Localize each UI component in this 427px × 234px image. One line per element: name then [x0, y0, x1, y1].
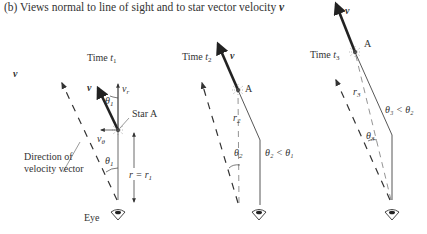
panel-2	[202, 44, 266, 220]
panel1-theta-bottom-label: θ1	[105, 156, 113, 168]
velocity-direction-dashed-line	[336, 80, 390, 200]
panel1-vtheta-label: vθ	[97, 134, 105, 146]
velocity-direction-dashed-line	[202, 83, 238, 203]
panel2-time-label: Time t2	[182, 52, 212, 64]
velocity-arrow-2	[218, 44, 238, 90]
direction-label-line2: velocity vector	[24, 164, 84, 174]
star-icon	[232, 84, 244, 96]
panel1-v-label: v	[87, 83, 91, 93]
panel2-theta-label: θ2	[234, 148, 242, 160]
theta1-arc-bottom	[106, 168, 118, 172]
panel3-star-label: A	[364, 39, 371, 49]
line-of-sight-3	[355, 52, 391, 200]
eye-icon	[252, 210, 266, 221]
eye-icon	[111, 210, 125, 221]
panel1-r-label: r = r1	[129, 170, 152, 182]
panel2-star-label: A	[245, 84, 252, 94]
panel3-time-label: Time t3	[310, 50, 340, 62]
eye-label: Eye	[84, 213, 100, 223]
panel1-theta-top-label: θ1	[105, 96, 113, 108]
star-leader-line	[120, 118, 129, 128]
panel3-theta-label: θ3	[366, 131, 374, 143]
panel2-relation: θ₂ < θ₁	[265, 148, 294, 158]
star-motion-diagram	[0, 0, 427, 234]
panel3-relation: θ₃ < θ₂	[385, 105, 414, 115]
panel1-star-label: Star A	[132, 109, 157, 119]
panel3-r-label: r3	[353, 87, 360, 99]
trajectory-line-2	[238, 90, 260, 140]
star-icon	[349, 46, 361, 58]
panel1-vr-label: vr	[122, 84, 129, 96]
panel2-v-label: v	[230, 51, 234, 61]
panel3-v-label: v	[345, 6, 349, 16]
direction-label-line1: Direction of	[24, 152, 73, 162]
panel2-r-label: r2	[233, 113, 240, 125]
trajectory-line-3	[355, 52, 392, 135]
eye-icon	[385, 210, 399, 221]
panel1-time-label: Time t1	[87, 53, 117, 65]
legend-v-label: v	[13, 69, 17, 79]
